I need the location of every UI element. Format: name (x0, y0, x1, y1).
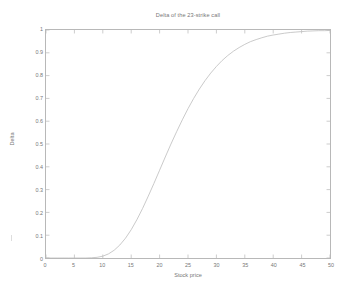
figure-canvas: Delta of the 23-strike call 00.10.20.30.… (0, 0, 351, 292)
y-tick-label: 0.6 (21, 118, 43, 124)
y-tick-label: 0.1 (21, 233, 43, 239)
y-tick-label: 0.8 (21, 72, 43, 78)
x-axis-label: Stock price (45, 272, 331, 278)
x-tick-label: 50 (319, 262, 343, 268)
chart-title: Delta of the 23-strike call (45, 12, 331, 18)
x-tick-label: 20 (147, 262, 171, 268)
y-tick-label: 0.5 (21, 141, 43, 147)
x-tick-label: 15 (119, 262, 143, 268)
y-tick-label: 0.4 (21, 164, 43, 170)
y-axis-label: Delta (9, 117, 15, 161)
x-tick-label: 35 (233, 262, 257, 268)
x-tick-label: 5 (62, 262, 86, 268)
y-tick-label: 0.2 (21, 210, 43, 216)
y-tick-label: 0.3 (21, 187, 43, 193)
plot-area (45, 29, 331, 259)
y-tick-label: 1 (21, 26, 43, 32)
x-tick-label: 10 (90, 262, 114, 268)
y-tick-label: 0.7 (21, 95, 43, 101)
delta-curve-svg (46, 30, 330, 258)
y-axis-tick-labels: 00.10.20.30.40.50.60.70.80.91 (19, 29, 43, 259)
x-axis-tick-labels: 05101520253035404550 (45, 262, 331, 272)
x-tick-label: 25 (176, 262, 200, 268)
x-tick-label: 0 (33, 262, 57, 268)
x-tick-label: 30 (205, 262, 229, 268)
y-tick-label: 0.9 (21, 49, 43, 55)
scan-artifact (11, 235, 12, 241)
axis-tick-marks (46, 30, 330, 258)
x-tick-label: 45 (290, 262, 314, 268)
delta-curve-line (46, 30, 330, 258)
x-tick-label: 40 (262, 262, 286, 268)
